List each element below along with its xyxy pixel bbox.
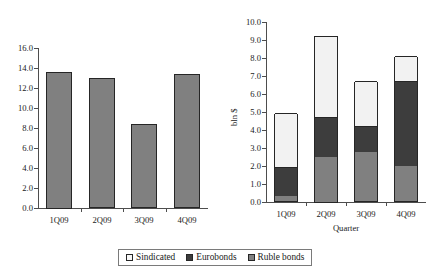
- left-chart-y-tick-label: 6.0: [0, 144, 33, 153]
- right-chart-y-axis: [266, 22, 267, 203]
- legend-label-sindicated: Sindicated: [136, 253, 175, 262]
- right-chart-x-tick: [346, 202, 347, 206]
- right-chart-bar-segment[interactable]: [275, 167, 297, 196]
- legend-swatch-ruble-bonds: [248, 254, 255, 261]
- left-chart-bar[interactable]: [89, 78, 115, 208]
- right-chart-bar-segment[interactable]: [355, 81, 377, 126]
- right-chart-bar-segment[interactable]: [275, 113, 297, 167]
- right-stacked-bar-chart: bln $ Quarter 10.09.08.07.06.05.04.03.02…: [218, 0, 436, 245]
- right-chart-y-tick-label: 3.0: [228, 144, 261, 153]
- right-chart-x-tick-label: 1Q09: [264, 210, 308, 219]
- legend-swatch-sindicated: [126, 254, 133, 261]
- left-chart-y-axis: [38, 48, 39, 209]
- right-chart-stacked-bar[interactable]: [274, 114, 298, 202]
- left-chart-y-tick: [34, 128, 38, 129]
- right-chart-x-tick-label: 2Q09: [304, 210, 348, 219]
- right-chart-bar-segment[interactable]: [275, 196, 297, 201]
- legend-item-sindicated: Sindicated: [126, 253, 175, 262]
- left-chart-y-tick-label: 2.0: [0, 184, 33, 193]
- left-chart-x-tick: [123, 208, 124, 212]
- left-bar-chart: 16.014.012.010.08.06.04.02.00.01Q092Q093…: [0, 0, 218, 232]
- right-chart-y-tick: [262, 58, 266, 59]
- left-chart-x-tick-label: 2Q09: [80, 216, 124, 225]
- left-chart-y-tick: [34, 148, 38, 149]
- right-chart-bar-segment[interactable]: [395, 166, 417, 201]
- left-chart-y-tick-label: 14.0: [0, 64, 33, 73]
- left-chart-bar[interactable]: [174, 74, 200, 208]
- right-chart-y-tick-label: 4.0: [228, 126, 261, 135]
- left-chart-y-tick: [34, 208, 38, 209]
- legend-label-eurobonds: Eurobonds: [196, 253, 236, 262]
- left-chart-y-tick: [34, 108, 38, 109]
- right-chart-y-tick-label: 10.0: [228, 18, 261, 27]
- right-chart-bar-segment[interactable]: [355, 126, 377, 152]
- right-chart-y-tick-label: 2.0: [228, 162, 261, 171]
- left-chart-y-tick: [34, 88, 38, 89]
- right-chart-y-tick-label: 9.0: [228, 36, 261, 45]
- right-chart-y-tick: [262, 76, 266, 77]
- left-chart-y-tick: [34, 168, 38, 169]
- left-chart-x-tick: [166, 208, 167, 212]
- right-chart-x-tick-label: 4Q09: [384, 210, 428, 219]
- legend-item-ruble-bonds: Ruble bonds: [248, 253, 305, 262]
- right-chart-y-tick: [262, 130, 266, 131]
- left-chart-x-tick-label: 4Q09: [165, 216, 209, 225]
- right-chart-y-tick: [262, 112, 266, 113]
- right-chart-x-tick: [386, 202, 387, 206]
- right-chart-stacked-bar[interactable]: [354, 82, 378, 202]
- right-chart-bar-segment[interactable]: [395, 81, 417, 166]
- legend-label-ruble-bonds: Ruble bonds: [258, 253, 305, 262]
- left-chart-y-tick-label: 10.0: [0, 104, 33, 113]
- right-chart-x-axis-title: Quarter: [326, 224, 366, 233]
- left-chart-x-tick: [81, 208, 82, 212]
- right-chart-y-tick: [262, 184, 266, 185]
- left-chart-x-tick-label: 3Q09: [122, 216, 166, 225]
- right-chart-y-tick-label: 8.0: [228, 54, 261, 63]
- left-chart-y-tick: [34, 48, 38, 49]
- left-chart-y-tick-label: 8.0: [0, 124, 33, 133]
- chart-legend: Sindicated Eurobonds Ruble bonds: [118, 249, 312, 266]
- left-chart-bar[interactable]: [46, 72, 72, 209]
- left-chart-y-tick-label: 12.0: [0, 84, 33, 93]
- left-chart-x-tick-label: 1Q09: [37, 216, 81, 225]
- right-chart-y-tick: [262, 40, 266, 41]
- right-chart-bar-segment[interactable]: [315, 36, 337, 117]
- left-chart-y-tick: [34, 188, 38, 189]
- right-chart-bar-segment[interactable]: [355, 152, 377, 201]
- right-chart-x-tick-label: 3Q09: [344, 210, 388, 219]
- legend-swatch-eurobonds: [186, 254, 193, 261]
- left-chart-y-tick-label: 16.0: [0, 44, 33, 53]
- figure: 16.014.012.010.08.06.04.02.00.01Q092Q093…: [0, 0, 436, 275]
- right-chart-y-tick-label: 0.0: [228, 198, 261, 207]
- right-chart-bar-segment[interactable]: [315, 157, 337, 202]
- right-chart-y-tick: [262, 94, 266, 95]
- left-chart-y-tick-label: 0.0: [0, 204, 33, 213]
- left-chart-y-tick: [34, 68, 38, 69]
- right-chart-y-tick: [262, 22, 266, 23]
- left-chart-y-tick-label: 4.0: [0, 164, 33, 173]
- right-chart-x-tick: [306, 202, 307, 206]
- right-chart-bar-segment[interactable]: [395, 56, 417, 81]
- right-chart-stacked-bar[interactable]: [394, 57, 418, 202]
- right-chart-y-tick-label: 7.0: [228, 72, 261, 81]
- right-chart-y-tick-label: 6.0: [228, 90, 261, 99]
- right-chart-y-tick: [262, 148, 266, 149]
- right-chart-y-tick-label: 5.0: [228, 108, 261, 117]
- right-chart-y-tick: [262, 166, 266, 167]
- right-chart-bar-segment[interactable]: [315, 117, 337, 158]
- right-chart-y-tick-label: 1.0: [228, 180, 261, 189]
- left-chart-bar[interactable]: [131, 124, 157, 208]
- legend-item-eurobonds: Eurobonds: [186, 253, 236, 262]
- right-chart-stacked-bar[interactable]: [314, 36, 338, 203]
- right-chart-y-tick: [262, 202, 266, 203]
